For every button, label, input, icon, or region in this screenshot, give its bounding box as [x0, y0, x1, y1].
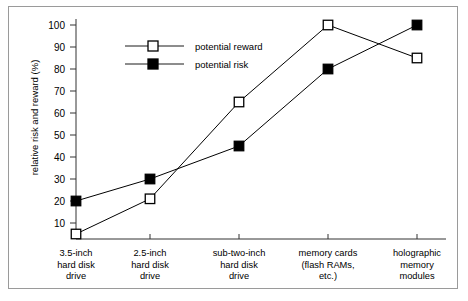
- x-category-line: hard disk: [193, 260, 285, 272]
- legend-marker-open-square: [148, 41, 158, 51]
- data-point-marker: [323, 20, 333, 30]
- data-point-marker: [412, 53, 422, 63]
- legend-label-reward: potential reward: [195, 41, 263, 52]
- data-point-marker: [145, 194, 155, 204]
- data-point-marker: [412, 20, 422, 30]
- data-point-marker: [323, 64, 333, 74]
- series-potential-reward: [71, 20, 422, 239]
- data-point-marker: [71, 196, 81, 206]
- legend-label-risk: potential risk: [195, 59, 248, 70]
- x-category-line: modules: [371, 271, 463, 283]
- x-category-label: sub-two-inch hard disk drive: [193, 248, 285, 283]
- x-category-line: drive: [104, 271, 196, 283]
- x-category-line: sub-two-inch: [193, 248, 285, 260]
- x-category-line: memory cards: [282, 248, 374, 260]
- legend-markers: [125, 41, 184, 69]
- x-category-line: memory: [371, 260, 463, 272]
- legend-marker-filled-square: [148, 59, 158, 69]
- x-category-line: 2.5-inch: [104, 248, 196, 260]
- data-point-marker: [234, 141, 244, 151]
- chart-plot-area: relative risk and reward (%) 100 90 80 7…: [9, 7, 459, 290]
- series-line: [76, 25, 417, 234]
- x-category-line: holographic: [371, 248, 463, 260]
- chart-frame: relative risk and reward (%) 100 90 80 7…: [8, 6, 458, 289]
- x-category-label: holographic memory modules: [371, 248, 463, 283]
- data-point-marker: [145, 174, 155, 184]
- x-category-label: memory cards (flash RAMs, etc.): [282, 248, 374, 283]
- data-point-marker: [234, 97, 244, 107]
- data-point-marker: [71, 229, 81, 239]
- x-category-line: (flash RAMs,: [282, 260, 374, 272]
- x-category-line: hard disk: [104, 260, 196, 272]
- x-category-line: etc.): [282, 271, 374, 283]
- x-category-label: 2.5-inch hard disk drive: [104, 248, 196, 283]
- x-category-line: drive: [193, 271, 285, 283]
